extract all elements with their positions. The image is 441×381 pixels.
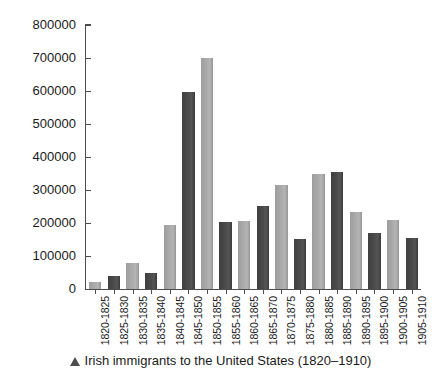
x-axis-tick (226, 290, 227, 294)
y-axis-tick-label: 500000 (0, 117, 76, 130)
bar-1820-1825 (89, 282, 101, 289)
x-axis-tick (95, 290, 96, 294)
x-axis-tick-label: 1820-1825 (99, 296, 111, 345)
x-axis-line (85, 289, 421, 290)
bar-1845-1850 (182, 92, 194, 289)
y-axis-tick-label: 100000 (0, 249, 76, 262)
x-axis-tick-label: 1900-1905 (397, 296, 409, 345)
bar-slot (164, 25, 176, 289)
bar-slot (145, 25, 157, 289)
x-axis-tick-label: 1905-1910 (416, 296, 428, 345)
bar-slot (312, 25, 324, 289)
bar-1885-1890 (331, 172, 343, 289)
y-axis-tick-label: 0 (0, 282, 76, 295)
x-axis-tick (393, 290, 394, 294)
x-axis-tick (170, 290, 171, 294)
bar-1900-1905 (387, 220, 399, 289)
x-axis-tick (114, 290, 115, 294)
x-axis-tick (374, 290, 375, 294)
y-axis-tick-label: 700000 (0, 51, 76, 64)
bar-slot (406, 25, 418, 289)
x-axis-tick (412, 290, 413, 294)
bar-slot (201, 25, 213, 289)
bar-1875-1880 (294, 239, 306, 289)
bar-slot (108, 25, 120, 289)
chart-figure: 8000007000006000005000004000003000002000… (0, 0, 441, 381)
bar-1905-1910 (406, 238, 418, 289)
bar-slot (368, 25, 380, 289)
chart-caption: Irish immigrants to the United States (1… (0, 353, 441, 368)
x-axis-tick (281, 290, 282, 294)
bar-1830-1835 (126, 263, 138, 289)
y-axis-tick-label: 300000 (0, 183, 76, 196)
bar-1825-1830 (108, 276, 120, 289)
x-axis-tick-label: 1860-1865 (248, 296, 260, 345)
x-axis-tick (300, 290, 301, 294)
bar-1850-1855 (201, 58, 213, 289)
x-axis-tick-label: 1825-1830 (118, 296, 130, 345)
y-axis-tick (86, 289, 91, 290)
caption-text: Irish immigrants to the United States (1… (85, 353, 372, 368)
x-axis-tick-label: 1845-1850 (192, 296, 204, 345)
x-axis-tick-label: 1880-1885 (323, 296, 335, 345)
bar-1855-1860 (219, 222, 231, 289)
bar-slot (387, 25, 399, 289)
x-axis-tick-label: 1890-1895 (360, 296, 372, 345)
x-axis-tick-label: 1870-1875 (285, 296, 297, 345)
bar-slot (219, 25, 231, 289)
x-axis-tick-label: 1855-1860 (230, 296, 242, 345)
x-axis-tick (319, 290, 320, 294)
bar-1890-1895 (350, 212, 362, 289)
bars-layer (86, 25, 421, 289)
x-axis-tick (188, 290, 189, 294)
x-axis-tick-label: 1835-1840 (155, 296, 167, 345)
x-axis-tick (244, 290, 245, 294)
bar-slot (89, 25, 101, 289)
bar-slot (126, 25, 138, 289)
bar-1835-1840 (145, 273, 157, 290)
x-axis-tick (337, 290, 338, 294)
x-axis-tick-label: 1895-1900 (378, 296, 390, 345)
bar-slot (331, 25, 343, 289)
x-axis-tick-label: 1885-1890 (341, 296, 353, 345)
bar-slot (294, 25, 306, 289)
y-axis-tick-label: 200000 (0, 216, 76, 229)
bar-slot (238, 25, 250, 289)
bar-1880-1885 (312, 174, 324, 290)
y-axis-tick-label: 400000 (0, 150, 76, 163)
x-axis-tick (151, 290, 152, 294)
bar-slot (182, 25, 194, 289)
x-axis-tick (263, 290, 264, 294)
bar-1895-1900 (368, 233, 380, 289)
x-axis-tick-label: 1840-1845 (174, 296, 186, 345)
x-axis-tick-label: 1865-1870 (267, 296, 279, 345)
y-axis-tick-label: 600000 (0, 84, 76, 97)
bar-slot (275, 25, 287, 289)
bar-slot (350, 25, 362, 289)
x-axis-tick (356, 290, 357, 294)
x-axis-tick (133, 290, 134, 294)
bar-1865-1870 (257, 206, 269, 289)
bar-1840-1845 (164, 225, 176, 289)
y-axis-tick-label: 800000 (0, 18, 76, 31)
x-axis-tick-label: 1875-1880 (304, 296, 316, 345)
bar-1860-1865 (238, 221, 250, 289)
x-axis-tick-label: 1830-1835 (137, 296, 149, 345)
triangle-up-icon (70, 357, 80, 366)
bar-1870-1875 (275, 185, 287, 289)
x-axis-end-cap-hidden (416, 289, 421, 290)
bar-slot (257, 25, 269, 289)
x-axis-tick-label: 1850-1855 (211, 296, 223, 345)
x-axis-tick (207, 290, 208, 294)
